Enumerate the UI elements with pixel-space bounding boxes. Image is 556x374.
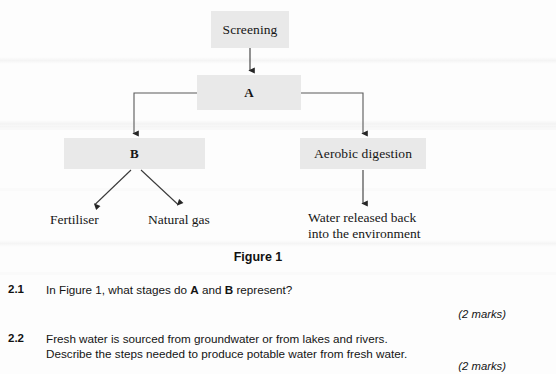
q21-part-2: and — [199, 283, 225, 296]
q21-bold-b: B — [225, 283, 233, 296]
flowchart-box-b: B — [64, 138, 205, 169]
figure-caption: Figure 1 — [0, 250, 516, 264]
q21-part-3: represent? — [233, 283, 292, 296]
flowchart-label-natural-gas: Natural gas — [148, 212, 210, 228]
connector-a-to-b — [134, 93, 197, 134]
page-root: Screening A B Aerobic digestion Fertilis… — [0, 0, 556, 374]
marks-label-2-2: (2 marks) — [386, 360, 506, 372]
q21-bold-a: A — [190, 283, 198, 296]
flowchart-label-water-released: Water released back into the environment — [308, 210, 438, 242]
question-number-2-2: 2.2 — [8, 332, 24, 344]
marks-label-2-1: (2 marks) — [386, 308, 506, 320]
question-text-2-1: In Figure 1, what stages do A and B repr… — [46, 282, 292, 298]
flowchart-box-a: A — [197, 75, 301, 110]
arrow-b-to-fertiliser — [95, 170, 131, 205]
question-text-2-2-line-2: Describe the steps needed to produce pot… — [46, 346, 407, 362]
q21-part-1: In Figure 1, what stages do — [46, 283, 190, 296]
connector-a-to-aerobic — [301, 93, 363, 134]
question-number-2-1: 2.1 — [8, 283, 24, 295]
figure-1-flowchart: Screening A B Aerobic digestion Fertilis… — [0, 0, 556, 272]
flowchart-label-fertiliser: Fertiliser — [50, 212, 99, 228]
flowchart-box-aerobic-digestion: Aerobic digestion — [300, 138, 426, 169]
flowchart-box-screening: Screening — [211, 11, 289, 48]
question-text-2-2-line-1: Fresh water is sourced from groundwater … — [46, 331, 388, 347]
questions-section: 2.1 In Figure 1, what stages do A and B … — [0, 272, 556, 374]
arrow-b-to-natural-gas — [141, 170, 178, 205]
